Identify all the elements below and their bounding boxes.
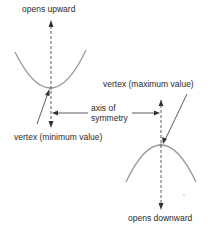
vertex-max-pointer [165, 94, 187, 140]
arrow-down-icon [159, 203, 164, 210]
vertex-max-point [159, 143, 162, 146]
vertex-min-point [49, 86, 52, 89]
label-vertex-min: vertex (minimum value) [14, 132, 102, 142]
label-opens-downward: opens downward [128, 213, 192, 223]
label-opens-upward: opens upward [22, 4, 75, 14]
label-axis-line2: symmetry [91, 113, 128, 123]
vertex-min-pointer [37, 93, 48, 124]
arrow-up-icon [49, 20, 54, 27]
arrow-up-icon [159, 100, 164, 106]
speck [183, 194, 184, 195]
arrow-left-icon [52, 111, 58, 116]
arrow-down-icon [49, 121, 54, 128]
upward-parabola [15, 50, 86, 88]
arrow-right-icon [154, 111, 160, 116]
label-axis-line1: axis of [91, 103, 116, 113]
label-vertex-max: vertex (maximum value) [103, 79, 194, 89]
pointer-arrow-icon [45, 89, 50, 96]
